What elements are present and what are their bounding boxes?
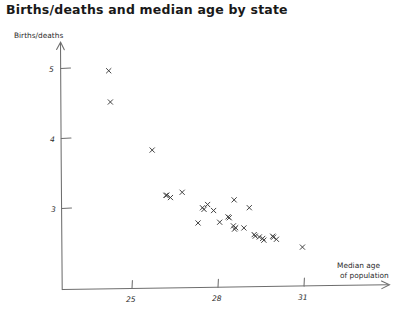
data-point	[217, 220, 222, 225]
data-point	[233, 225, 238, 230]
data-point	[205, 202, 210, 207]
data-point	[247, 205, 252, 210]
chart-container: Births/deaths and median age by state Bi…	[0, 0, 409, 322]
y-tick-label-4: 4	[50, 135, 55, 144]
x-tick-label-28: 28	[212, 294, 222, 303]
x-tick-label-31: 31	[298, 293, 308, 302]
y-axis-label: Births/deaths	[14, 31, 63, 40]
scatter-plot: Births/deaths 5 4 3 25 28 31	[0, 0, 409, 322]
y-tick-label-3: 3	[51, 205, 56, 214]
data-point	[253, 234, 258, 239]
x-axis-ticks: 25 28 31	[126, 278, 308, 304]
x-axis	[62, 281, 389, 290]
y-axis	[57, 42, 65, 289]
y-tick-label-5: 5	[49, 65, 54, 74]
data-point	[300, 245, 305, 250]
data-point	[211, 208, 216, 213]
data-point	[232, 198, 237, 203]
data-point	[242, 226, 247, 231]
x-axis-label-line2: of population	[340, 271, 389, 280]
data-point-group	[106, 68, 304, 249]
data-point	[108, 100, 113, 105]
data-point	[106, 68, 111, 73]
data-point	[196, 221, 201, 226]
x-axis-label: Median age of population	[337, 261, 389, 280]
data-point	[274, 237, 279, 242]
x-axis-label-line1: Median age	[337, 261, 380, 270]
data-point	[180, 190, 185, 195]
data-point	[202, 207, 207, 212]
x-tick-label-25: 25	[126, 295, 136, 304]
data-point	[150, 148, 155, 153]
